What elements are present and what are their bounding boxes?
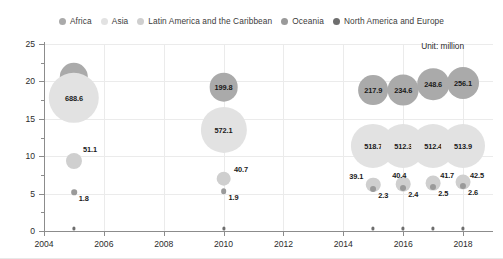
legend-swatch-icon (137, 18, 144, 25)
x-tick (463, 232, 464, 236)
bubble-value-label: 1.9 (228, 193, 238, 202)
legend-label: Oceania (292, 16, 324, 26)
legend-label: Latin America and the Caribbean (148, 16, 272, 26)
bubble-value-label: 1.8 (79, 193, 89, 202)
y-tick-label: 10 (25, 151, 35, 161)
data-bubble[interactable] (370, 186, 376, 192)
gridline-horizontal (44, 194, 493, 195)
bubble-value-label: 40.7 (234, 165, 248, 174)
x-tick-label: 2012 (274, 239, 293, 249)
x-tick-label: 2006 (94, 239, 113, 249)
y-axis-labels: Percent of undernourishment 0510152025 (0, 44, 40, 231)
bubble-value-label: 199.8 (215, 83, 233, 92)
data-bubble[interactable] (222, 227, 225, 230)
bubble-value-label: 248.6 (424, 80, 442, 89)
x-tick (104, 232, 105, 236)
data-bubble[interactable] (432, 227, 435, 230)
bubble-value-label: 688.6 (65, 93, 83, 102)
bubble-value-label: 2.6 (468, 188, 478, 197)
bubble-value-label: 42.5 (470, 171, 484, 180)
data-bubble[interactable] (221, 189, 227, 195)
bubble-value-label: 2.3 (378, 191, 388, 200)
bubble-value-label: 256.1 (454, 78, 472, 87)
x-tick (283, 232, 284, 236)
plot-area: 196.0199.8217.9234.6248.6256.1688.6572.1… (44, 44, 493, 231)
legend-item-north-america-and-europe[interactable]: North America and Europe (333, 16, 444, 26)
data-bubble[interactable] (461, 227, 464, 230)
bubble-value-label: 572.1 (215, 126, 233, 135)
x-tick-label: 2018 (454, 239, 473, 249)
x-tick-label: 2016 (394, 239, 413, 249)
legend-label: Africa (70, 16, 92, 26)
bubble-value-label: 51.1 (83, 144, 97, 153)
bubble-value-label: 518.7 (364, 141, 382, 150)
legend-item-africa[interactable]: Africa (59, 16, 92, 26)
gridline-horizontal (44, 119, 493, 120)
data-bubble[interactable] (372, 227, 375, 230)
gridline-vertical (164, 44, 165, 231)
x-axis-labels: 20042006200820102012201420162018 (44, 232, 493, 252)
legend-label: Asia (112, 16, 129, 26)
legend-item-oceania[interactable]: Oceania (281, 16, 324, 26)
bubble-value-label: 512.3 (394, 142, 412, 151)
bubble-value-label: 41.7 (440, 171, 454, 180)
legend-swatch-icon (281, 18, 288, 25)
gridline-vertical (343, 44, 344, 231)
data-bubble[interactable] (400, 185, 406, 191)
bubble-value-label: 512.4 (424, 142, 442, 151)
y-tick-label: 20 (25, 76, 35, 86)
data-bubble[interactable] (216, 171, 231, 186)
x-tick (403, 232, 404, 236)
x-tick-label: 2010 (214, 239, 233, 249)
data-bubble[interactable] (402, 227, 405, 230)
legend-swatch-icon (333, 18, 340, 25)
x-tick (164, 232, 165, 236)
legend-label: North America and Europe (344, 16, 444, 26)
bubble-value-label: 2.5 (438, 188, 448, 197)
data-bubble[interactable] (66, 153, 82, 169)
gridline-vertical (283, 44, 284, 231)
y-axis-line (44, 42, 45, 233)
y-tick-label: 5 (30, 189, 35, 199)
bubble-value-label: 234.6 (394, 86, 412, 95)
x-tick-label: 2004 (34, 239, 53, 249)
bubble-value-label: 217.9 (364, 86, 382, 95)
chart-root: AfricaAsiaLatin America and the Caribbea… (0, 0, 503, 259)
x-tick (343, 232, 344, 236)
bubble-value-label: 2.4 (408, 190, 418, 199)
bubble-value-label: 513.9 (454, 142, 472, 151)
y-tick-label: 0 (30, 226, 35, 236)
data-bubble[interactable] (71, 189, 77, 195)
x-tick-label: 2008 (154, 239, 173, 249)
legend-swatch-icon (101, 18, 108, 25)
y-tick-label: 25 (25, 39, 35, 49)
data-bubble[interactable] (72, 227, 75, 230)
x-tick-label: 2014 (334, 239, 353, 249)
x-tick (44, 232, 45, 236)
legend-swatch-icon (59, 18, 66, 25)
bubble-value-label: 40.4 (392, 170, 406, 179)
y-tick-label: 15 (25, 114, 35, 124)
legend-item-asia[interactable]: Asia (101, 16, 129, 26)
chart-legend: AfricaAsiaLatin America and the Caribbea… (0, 12, 503, 30)
gridline-vertical (104, 44, 105, 231)
legend-item-latin-america-and-the-caribbean[interactable]: Latin America and the Caribbean (137, 16, 272, 26)
x-tick (224, 232, 225, 236)
unit-annotation: Unit: million (421, 41, 464, 51)
bubble-value-label: 39.1 (349, 171, 363, 180)
